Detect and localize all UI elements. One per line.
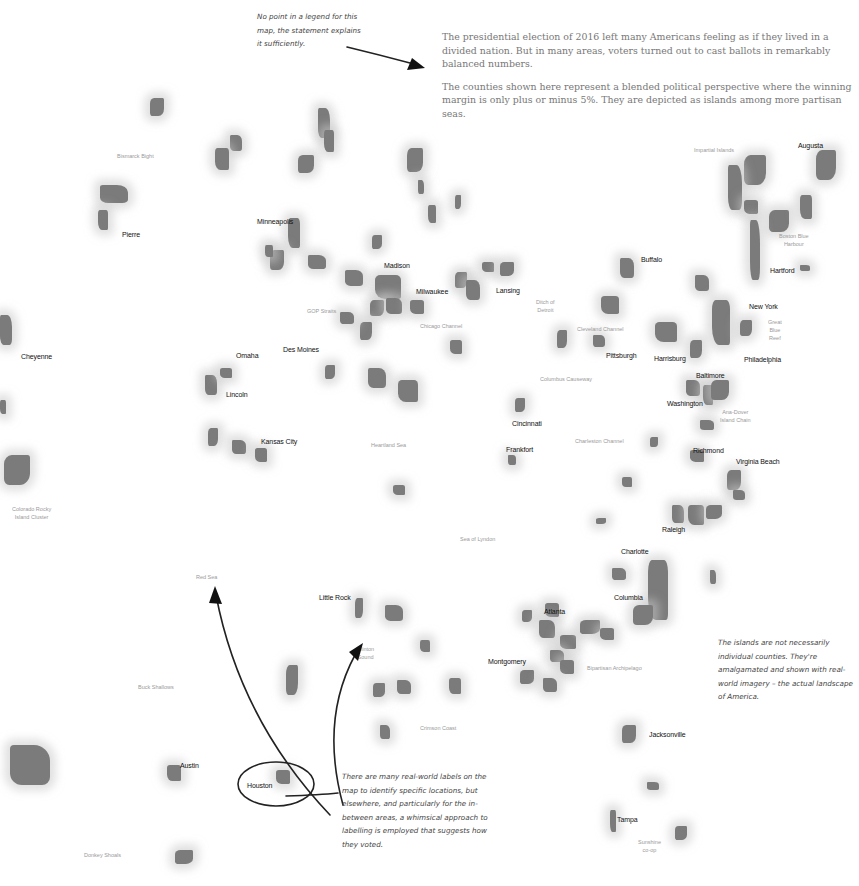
legend-note: No point in a legend for this map, the s… — [257, 10, 367, 51]
labels-note: There are many real-world labels on the … — [342, 770, 502, 851]
red-sea-arrow-icon — [216, 595, 330, 815]
islands-note: The islands are not necessarily individu… — [718, 636, 858, 704]
annotation-arrows — [0, 0, 859, 886]
intro-paragraph-2: The counties shown here represent a blen… — [442, 80, 852, 121]
intro-paragraph-1: The presidential election of 2016 left m… — [442, 30, 852, 71]
intro-text: The presidential election of 2016 left m… — [442, 30, 852, 129]
political-islands-map: Bismarck BightImpartial IslandsBoston Bl… — [0, 0, 859, 886]
